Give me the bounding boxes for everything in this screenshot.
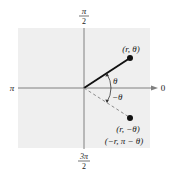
label-point-r-theta: (r, θ) bbox=[122, 44, 139, 54]
point-r-theta bbox=[127, 55, 133, 61]
polar-diagram: π 2 3π 2 π 0 θ −θ (r, θ) (r, −θ) (−r, π … bbox=[0, 0, 172, 175]
polar-axis-arrow-icon bbox=[151, 86, 158, 91]
label-zero: 0 bbox=[161, 83, 166, 93]
label-point-r-neg-theta: (r, −θ) bbox=[116, 124, 140, 134]
label-point-neg-r-pi-minus-theta: (−r, π − θ) bbox=[105, 136, 144, 146]
label-pi: π bbox=[10, 83, 15, 93]
label-pi-over-2-den: 2 bbox=[82, 17, 86, 26]
point-r-neg-theta bbox=[127, 115, 133, 121]
label-theta: θ bbox=[113, 76, 118, 86]
label-neg-theta: −θ bbox=[112, 92, 123, 102]
label-pi-over-2-num: π bbox=[82, 6, 87, 16]
label-3pi-over-2-num: 3π bbox=[79, 152, 89, 161]
label-3pi-over-2-den: 2 bbox=[82, 162, 86, 171]
